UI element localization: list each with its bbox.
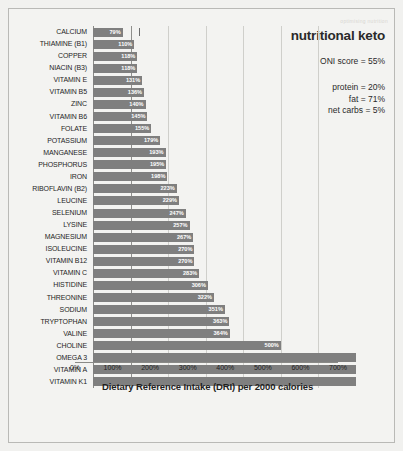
bar-value-label: 179% [144, 136, 160, 145]
bar [93, 353, 356, 362]
category-label: NIACIN (B3) [49, 62, 87, 74]
bar [93, 305, 225, 314]
bar-row: 193% [93, 147, 356, 159]
bar-row: 155% [93, 123, 356, 135]
bar-row: 351% [93, 304, 356, 316]
category-label: FOLATE [61, 123, 87, 135]
bar-value-label: 155% [135, 124, 151, 133]
bar-value-label: 229% [163, 196, 179, 205]
bar-value-label: 79% [109, 28, 122, 37]
bar-row: 223% [93, 183, 356, 195]
category-label: RIBOFLAVIN (B2) [32, 183, 87, 195]
bar-value-label: 267% [177, 233, 193, 242]
bar-value-label: 118% [121, 52, 137, 61]
bar-row: 79% [93, 26, 356, 38]
bar-value-label: 118% [121, 64, 137, 73]
bar [93, 341, 281, 350]
bar-row: 198% [93, 171, 356, 183]
bar-value-label: 145% [131, 112, 147, 121]
category-labels-column: CALCIUMTHIAMINE (B1)COPPERNIACIN (B3)VIT… [18, 26, 90, 388]
x-tick-label: 0% [70, 364, 80, 371]
category-label: TRYPTOPHAN [40, 316, 87, 328]
x-axis-label: Dietary Reference Intake (DRI) per 2000 … [60, 381, 355, 392]
bar-value-label: 223% [160, 184, 176, 193]
category-label: VITAMIN C [53, 267, 87, 279]
x-tick-label: 200% [141, 364, 159, 371]
x-axis-ticks: 0%100%200%300%400%500%600%700% [75, 364, 338, 378]
category-label: COPPER [58, 50, 87, 62]
bar-value-label: 247% [169, 209, 185, 218]
bar-row: 131% [93, 74, 356, 86]
bar-value-label: 257% [173, 221, 189, 230]
x-tick-label: 100% [104, 364, 122, 371]
category-label: SODIUM [60, 304, 87, 316]
bar-row: 270% [93, 255, 356, 267]
bar-row: 179% [93, 135, 356, 147]
bar-row: 322% [93, 291, 356, 303]
bar-value-label: 131% [126, 76, 142, 85]
bar-value-label: 322% [198, 293, 214, 302]
bar-value-label: 110% [118, 40, 134, 49]
category-label: THREONINE [47, 292, 87, 304]
bar [93, 329, 230, 338]
bar-row: 267% [93, 231, 356, 243]
bar-value-label: 500% [265, 341, 281, 350]
bar-row: 195% [93, 159, 356, 171]
bar-value-label: 364% [213, 329, 229, 338]
bar-value-label: 193% [149, 148, 165, 157]
bars-plot-area: 79%110%118%118%131%136%140%145%155%179%1… [93, 26, 356, 388]
bar-row: 118% [93, 50, 356, 62]
bar [93, 293, 214, 302]
bar-row: 110% [93, 38, 356, 50]
category-label: MAGNESIUM [45, 231, 87, 243]
category-label: CHOLINE [57, 340, 87, 352]
category-label: VALINE [63, 328, 87, 340]
bar-row: 136% [93, 86, 356, 98]
bar-row: 257% [93, 219, 356, 231]
category-label: ISOLEUCINE [46, 243, 87, 255]
category-label: VITAMIN B6 [50, 111, 87, 123]
bar-value-label: 198% [151, 172, 167, 181]
category-label: VITAMIN B12 [46, 255, 87, 267]
bar-row: 283% [93, 267, 356, 279]
bar-row: 247% [93, 207, 356, 219]
category-label: LEUCINE [57, 195, 87, 207]
bar-value-label: 195% [150, 160, 166, 169]
category-label: VITAMIN E [53, 74, 87, 86]
bar [93, 317, 229, 326]
category-label: SELENIUM [52, 207, 87, 219]
category-label: HISTIDINE [53, 279, 87, 291]
x-axis-line [75, 362, 338, 363]
bar-value-label: 270% [178, 245, 194, 254]
bar-row: 363% [93, 316, 356, 328]
category-label: ZINC [71, 98, 87, 110]
calcium-tick-mark [139, 28, 141, 36]
bar-value-label: 270% [178, 257, 194, 266]
x-tick-label: 400% [216, 364, 234, 371]
category-label: THIAMINE (B1) [40, 38, 87, 50]
x-tick-label: 500% [254, 364, 272, 371]
bar-row: 306% [93, 279, 356, 291]
category-label: POTASSIUM [47, 135, 87, 147]
bar-value-label: 351% [209, 305, 225, 314]
bar-row: 229% [93, 195, 356, 207]
bar-value-label: 306% [192, 281, 208, 290]
category-label: LYSINE [63, 219, 87, 231]
x-tick-label: 600% [291, 364, 309, 371]
category-label: CALCIUM [56, 26, 87, 38]
nutrition-chart-figure: optimising nutrition nutritional keto ON… [0, 0, 403, 451]
bar-row: 364% [93, 328, 356, 340]
bar-value-label: 140% [129, 100, 145, 109]
x-tick-label: 300% [179, 364, 197, 371]
category-label: PHOSPHORUS [38, 159, 87, 171]
category-label: IRON [70, 171, 87, 183]
bar-row: 140% [93, 98, 356, 110]
x-tick-label: 700% [329, 364, 347, 371]
bar-row: 270% [93, 243, 356, 255]
category-label: MANGANESE [43, 147, 87, 159]
bar-value-label: 136% [128, 88, 144, 97]
bar-row: 145% [93, 110, 356, 122]
bar-value-label: 363% [213, 317, 229, 326]
category-label: VITAMIN B5 [50, 86, 87, 98]
bar-row: 500% [93, 340, 356, 352]
